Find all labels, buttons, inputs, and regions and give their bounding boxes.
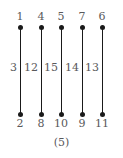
figure-caption: (5) (0, 136, 123, 149)
edge-group-5: 6 13 11 (90, 0, 114, 130)
edge-weight-label: 14 (65, 62, 79, 74)
edge-weight-label: 3 (10, 62, 17, 74)
bottom-node-label: 8 (38, 118, 45, 130)
top-node-label: 4 (38, 11, 45, 23)
bottom-node-label: 2 (17, 118, 24, 130)
top-node-label: 5 (58, 11, 65, 23)
top-node-label: 7 (79, 11, 86, 23)
bottom-node-label: 11 (95, 118, 109, 130)
bottom-node-label: 9 (79, 118, 86, 130)
edge-weight-label: 13 (85, 62, 99, 74)
edge-weight-label: 12 (24, 62, 38, 74)
bottom-node-label: 10 (54, 118, 68, 130)
edge-weight-label: 15 (44, 62, 58, 74)
edge-line (102, 27, 103, 114)
top-node-label: 1 (17, 11, 24, 23)
edge-line (61, 27, 62, 114)
graph-figure: 1 3 2 4 12 8 5 15 10 7 14 9 6 13 11 (0, 0, 123, 158)
edge-line (41, 27, 42, 114)
edge-line (20, 27, 21, 114)
top-node-label: 6 (99, 11, 106, 23)
edge-line (82, 27, 83, 114)
